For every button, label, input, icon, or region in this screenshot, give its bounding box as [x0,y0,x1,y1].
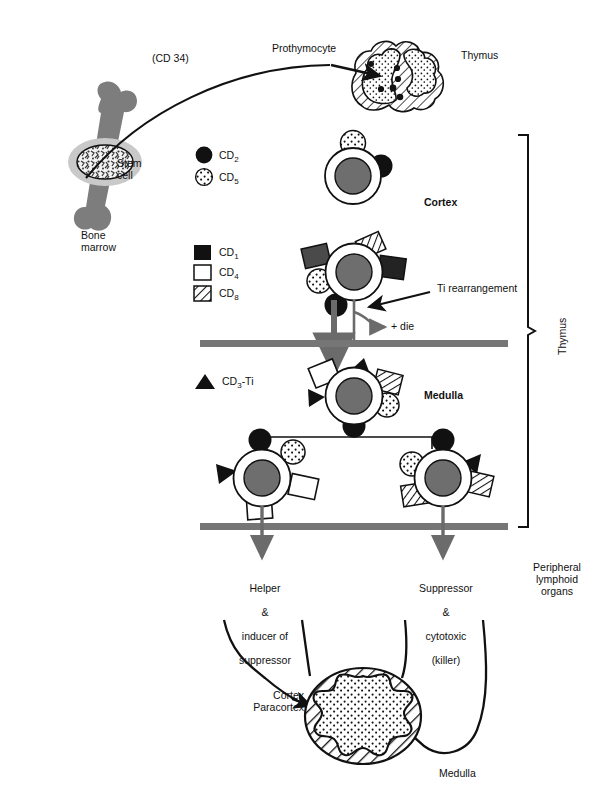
suppressor-caption: Suppressor & cytotoxic (killer) [383,570,503,666]
cell-cortex-early-thymocyte [325,131,393,205]
helper-line-2: & [261,606,268,618]
legend-cd5-label: CD5 [219,171,239,188]
suppressor-line-1: Suppressor [419,582,473,594]
legend-cd2-label: CD2 [219,149,239,166]
legend-cd5-swatch [196,169,213,186]
helper-line-1: Helper [249,582,280,594]
ti-rearrangement-arrow [369,292,430,307]
legend-cd3ti-swatch [195,374,215,389]
ti-rearrangement-label: Ti rearrangement [437,282,517,294]
bone-marrow-label: Bonemarrow [81,229,116,253]
cell-helper-t [216,429,319,520]
suppressor-line-4: (killer) [432,654,461,666]
legend-cd4-swatch [194,265,211,280]
die-arrow [354,312,385,327]
legend-cd4-label: CD4 [219,266,239,283]
legend-cd8-label: CD8 [219,287,239,304]
branch-to-helper [258,424,354,449]
medulla-label: Medulla [424,389,463,401]
branch-to-suppressor [354,424,432,449]
legend-group-2 [194,245,211,301]
helper-line-4: suppressor [239,654,291,666]
cortico-medullary-barrier [200,340,508,347]
cortex-label: Cortex [424,196,457,208]
stem-cell-label: Stemcell [117,157,142,181]
helper-caption: Helper & inducer of suppressor [202,570,322,666]
legend-cd3ti-label: CD3-Ti [222,375,253,392]
helper-line-3: inducer of [242,630,288,642]
diagram-canvas: (CD 34) Prothymocyte Thymus Stemcell Bon… [0,0,607,809]
marker-cd2 [432,429,455,452]
marker-cd4-right [288,474,319,500]
suppressor-line-3: cytotoxic [425,630,466,642]
thymus-organ-label: Thymus [461,49,498,61]
cell-medulla-thymocyte [308,358,403,438]
thymus-brace [515,132,537,530]
marker-cd3ti-left [308,389,325,407]
legend-group-3 [195,374,215,389]
legend-group-1 [196,147,213,186]
node-cortex-label: CortexParacortex [228,689,304,713]
peripheral-organs-label: Peripherallymphoidorgans [517,561,597,597]
thymus-bracket-label: Thymus [556,318,568,355]
marker-cd2 [249,429,272,452]
node-medulla-label: Medulla [439,767,476,779]
cd34-label: (CD 34) [152,52,189,64]
legend-cd1-swatch [194,245,211,260]
legend-cd2-swatch [196,147,213,164]
thymus-organ-graphic [352,41,443,111]
legend-cd8-swatch [194,286,211,301]
suppressor-line-2: & [442,606,449,618]
medulla-periphery-barrier [200,523,508,530]
cell-suppressor-t [400,429,494,507]
die-label: + die [391,320,414,332]
prothymocyte-label: Prothymocyte [272,42,336,54]
lymph-node-graphic [305,668,421,764]
legend-cd1-label: CD1 [219,246,239,263]
